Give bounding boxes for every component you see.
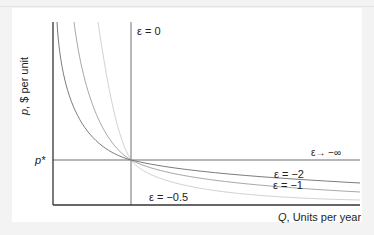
curve-eps-neg-2: [57, 22, 360, 183]
curve-eps-neg-0.5: [98, 22, 360, 200]
label-eps-zero: ε = 0: [137, 26, 161, 37]
y-axis-label: p, $ per unit: [18, 57, 30, 115]
p-star-tick-label: p*: [35, 155, 45, 166]
label-eps-neg-0.5: ε = −0.5: [149, 192, 188, 203]
label-eps-neg-1: ε = −1: [273, 180, 303, 191]
label-eps-neg-inf: ε→ −∞: [311, 148, 341, 158]
x-axis-label: Q, Units per year: [278, 212, 361, 223]
curve-eps-neg-1: [74, 22, 360, 192]
